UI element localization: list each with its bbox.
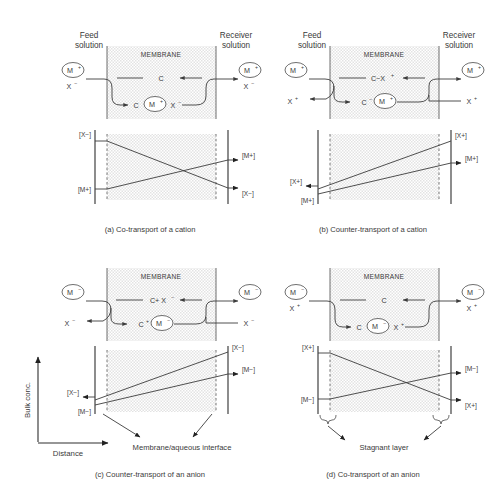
carrier-counter-complex-charge-b: + <box>391 72 394 78</box>
feed-anion-charge-a: − <box>74 80 77 86</box>
feed-solution-label-b-l2: solution <box>298 41 327 50</box>
graph-right-bottom-label-a: [X−] <box>242 190 254 198</box>
feed-anion-label-c: M <box>67 288 73 297</box>
carrier-counter-complex-charge-c: − <box>171 294 174 300</box>
complex-anion-label-d: M <box>372 322 378 331</box>
complex-prefix-b: C <box>361 98 366 107</box>
membrane-label-c: MEMBRANE <box>141 273 182 280</box>
feed-anion-label-d: M <box>290 288 296 297</box>
panel-d-caption: (d) Co-transport of an anion <box>326 470 419 479</box>
stagnant-layer-annotation: Stagnant layer <box>360 443 409 452</box>
feed-cation-label-b: M <box>290 66 296 75</box>
graph-left-top-label-a: [X−] <box>79 131 91 139</box>
graph-right-top-label-b: [X+] <box>455 132 467 140</box>
carrier-counter-complex-label-b: C−X <box>371 74 385 83</box>
free-carrier-label-a: C <box>158 74 163 83</box>
receiver-anion-charge-a: − <box>251 80 254 86</box>
complex-cation-charge-b: + <box>390 95 393 101</box>
receiver-anion-charge-c: − <box>255 286 258 292</box>
feed-cation-charge-a: + <box>78 64 81 70</box>
graph-left-top-label-d: [X+] <box>302 344 314 352</box>
feed-solution-label-b-l1: Feed <box>303 31 322 40</box>
feed-anion-charge-c: − <box>78 286 81 292</box>
receiver-cation-label-a: M <box>244 66 250 75</box>
graph-left-top-label-c: [X−] <box>67 389 79 397</box>
receiver-anion-charge-d: − <box>478 286 481 292</box>
complex-suffix-d: X <box>394 323 399 332</box>
graph-right-top-label-a: [M+] <box>242 152 255 160</box>
feed-counter-label-c: X <box>65 319 70 328</box>
complex-anion-label-c: M <box>156 319 162 328</box>
receiver-counter-charge-b: + <box>474 95 477 101</box>
receiver-solution-label-b-l1: Receiver <box>443 31 476 40</box>
receiver-counter-charge-d: + <box>474 302 477 308</box>
complex-suffix-charge-d: + <box>401 321 404 327</box>
complex-cation-label-b: M <box>379 97 385 106</box>
feed-counter-charge-c: − <box>72 317 75 323</box>
receiver-counter-label-b: X <box>467 97 472 106</box>
y-axis-label: Bulk conc. <box>23 382 32 418</box>
feed-anion-charge-d: − <box>301 286 304 292</box>
feed-counter-charge-b: + <box>295 95 298 101</box>
x-axis-label: Distance <box>53 449 83 458</box>
receiver-cation-charge-a: + <box>255 64 258 70</box>
graph-right-bottom-label-c: [M−] <box>242 366 255 374</box>
graph-membrane-region-b <box>330 134 439 200</box>
graph-left-bottom-label-c: [M−] <box>78 408 91 416</box>
membrane-label-a: MEMBRANE <box>141 51 182 58</box>
complex-prefix-a: C <box>133 101 138 110</box>
receiver-cation-charge-b: + <box>478 64 481 70</box>
panel-c-caption: (c) Counter-transport of an anion <box>95 470 205 479</box>
complex-suffix-a: X <box>171 101 176 110</box>
receiver-solution-label-b-l2: solution <box>445 41 474 50</box>
receiver-anion-label-c: M <box>244 288 250 297</box>
graph-right-top-label-c: [X−] <box>232 344 244 352</box>
graph-right-bottom-label-b: [M+] <box>465 155 478 163</box>
complex-prefix-charge-b: − <box>369 96 372 102</box>
receiver-counter-label-d: X <box>467 304 472 313</box>
graph-left-top-label-b: [X+] <box>290 178 302 186</box>
complex-prefix-charge-c: + <box>146 318 149 324</box>
graph-left-bottom-label-a: [M+] <box>78 186 91 194</box>
receiver-cation-label-b: M <box>467 66 473 75</box>
feed-counter-charge-d: + <box>297 302 300 308</box>
receiver-counter-charge-c: − <box>251 317 254 323</box>
complex-prefix-d: C <box>356 323 361 332</box>
receiver-solution-label-a-l2: solution <box>222 41 251 50</box>
complex-anion-charge-c: − <box>167 317 170 323</box>
membrane-label-d: MEMBRANE <box>364 273 405 280</box>
receiver-anion-label-a: X <box>244 82 249 91</box>
feed-solution-label-a-l2: solution <box>75 41 104 50</box>
feed-counter-label-d: X <box>290 304 295 313</box>
feed-solution-label-a-l1: Feed <box>80 31 99 40</box>
carrier-counter-complex-label-c: C+ X <box>150 296 166 305</box>
graph-left-bottom-label-b: [M+] <box>301 197 314 205</box>
receiver-anion-label-d: M <box>467 288 473 297</box>
free-carrier-label-d: C <box>381 296 386 305</box>
receiver-counter-label-c: X <box>244 319 249 328</box>
graph-left-bottom-label-d: [M−] <box>301 396 314 404</box>
complex-cation-label-a: M <box>149 100 155 109</box>
complex-cation-charge-a: + <box>160 98 163 104</box>
complex-suffix-charge-a: − <box>178 99 181 105</box>
feed-cation-charge-b: + <box>301 64 304 70</box>
complex-prefix-c: C <box>138 320 143 329</box>
feed-cation-label-a: M <box>67 66 73 75</box>
graph-right-bottom-label-d: [X+] <box>465 402 477 410</box>
interface-annotation: Membrane/aqueous interface <box>133 443 232 452</box>
transport-mechanism-figure: Feed solution Receiver solution MEMBRANE… <box>0 0 498 492</box>
receiver-solution-label-a-l1: Receiver <box>220 31 253 40</box>
graph-right-top-label-d: [M−] <box>465 365 478 373</box>
feed-counter-label-b: X <box>288 97 293 106</box>
complex-anion-charge-d: − <box>383 320 386 326</box>
panel-a-caption: (a) Co-transport of a cation <box>105 225 196 234</box>
membrane-label-b: MEMBRANE <box>364 51 405 58</box>
panel-b-caption: (b) Counter-transport of a cation <box>319 225 427 234</box>
feed-anion-label-a: X <box>67 82 72 91</box>
